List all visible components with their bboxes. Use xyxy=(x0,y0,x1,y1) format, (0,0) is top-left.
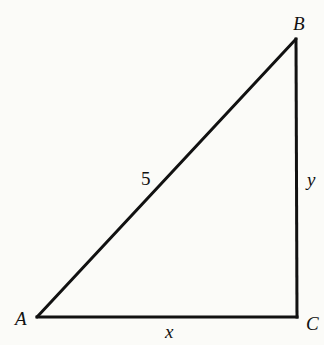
vertex-label-c: C xyxy=(306,313,319,334)
side-label-hypotenuse: 5 xyxy=(141,168,151,189)
vertex-label-a: A xyxy=(13,308,27,329)
vertex-label-b: B xyxy=(293,13,305,34)
triangle-figure: A B C 5 y x xyxy=(0,0,324,345)
side-label-vertical: y xyxy=(305,169,316,190)
diagram-canvas: A B C 5 y x xyxy=(0,0,324,345)
side-bc-vertical xyxy=(296,39,297,317)
side-ab-hypotenuse xyxy=(37,39,296,317)
side-label-horizontal: x xyxy=(164,321,174,342)
